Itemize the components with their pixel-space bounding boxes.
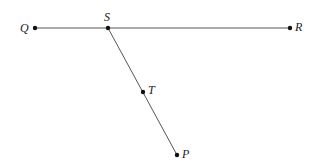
- point-q: [33, 26, 37, 30]
- label-p: P: [182, 148, 189, 160]
- label-r: R: [295, 21, 302, 33]
- point-r: [288, 26, 292, 30]
- geometry-diagram: [0, 0, 318, 167]
- label-s: S: [104, 11, 110, 23]
- label-q: Q: [20, 22, 29, 34]
- point-s: [106, 26, 110, 30]
- label-t: T: [148, 84, 155, 96]
- point-p: [175, 153, 179, 157]
- point-t: [141, 90, 145, 94]
